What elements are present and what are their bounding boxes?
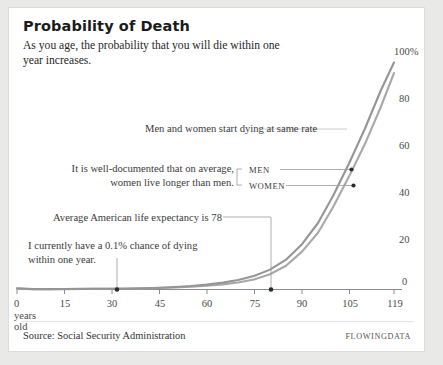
footer-divider: [21, 321, 414, 322]
y-tick-label-100: 100%: [394, 46, 419, 57]
annotation-women-live-longer: It is well-documented that on average, w…: [29, 162, 234, 189]
annotation-current-risk-line2: within one year.: [28, 253, 197, 267]
x-tick-label-60: 60: [197, 298, 217, 309]
annotation-current-risk: I currently have a 0.1% chance of dying …: [28, 239, 197, 266]
annotation-life-expectancy: Average American life expectancy is 78: [53, 211, 222, 225]
x-axis-ticks: [17, 290, 394, 295]
source-note: Source: Social Security Administration: [23, 330, 185, 341]
y-tick-label-80: 80: [399, 93, 410, 104]
data-point-men: [349, 167, 353, 171]
x-tick-label-30: 30: [102, 298, 122, 309]
series-label-women: WOMEN: [249, 181, 285, 191]
annotation-same-rate: Men and women start dying at same rate: [145, 122, 317, 136]
x-axis-unit-years: years: [14, 310, 36, 322]
annotation-women-live-longer-line2: women live longer than men.: [29, 176, 234, 190]
x-tick-label-15: 15: [55, 298, 75, 309]
data-point-current-risk: [115, 287, 120, 292]
data-point-women: [351, 183, 355, 187]
data-point-life-expectancy: [269, 287, 274, 292]
x-axis-unit-label: 0 years old: [14, 298, 36, 333]
chart-card: Probability of Death As you age, the pro…: [8, 7, 425, 352]
y-tick-label-40: 40: [399, 187, 410, 198]
annotation-current-risk-line1: I currently have a 0.1% chance of dying: [28, 239, 197, 253]
series-label-men: MEN: [249, 165, 270, 175]
x-tick-label-45: 45: [150, 298, 170, 309]
annotation-women-live-longer-line1: It is well-documented that on average,: [29, 162, 234, 176]
x-tick-label-0: 0: [14, 298, 36, 310]
x-tick-label-90: 90: [292, 298, 312, 309]
x-tick-label-75: 75: [245, 298, 265, 309]
y-tick-label-60: 60: [399, 140, 410, 151]
x-tick-label-105: 105: [339, 298, 361, 309]
y-tick-label-0: 0: [402, 276, 407, 287]
credit-logo: FLOWINGDATA: [345, 332, 411, 341]
x-tick-label-119: 119: [384, 298, 406, 309]
y-tick-label-20: 20: [399, 234, 410, 245]
